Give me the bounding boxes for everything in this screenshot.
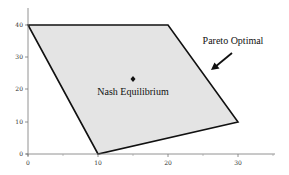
y-tick-20: 20 (15, 85, 23, 92)
nash-equilibrium-label: Nash Equilibrium (97, 86, 169, 97)
y-axis: 0 10 20 30 40 (15, 8, 28, 157)
x-tick-30: 30 (234, 159, 242, 166)
x-tick-10: 10 (94, 159, 102, 166)
y-tick-10: 10 (15, 118, 23, 125)
y-tick-40: 40 (15, 21, 23, 28)
chart: 0 10 20 30 40 0 10 20 30 Nash Equilibriu… (0, 0, 289, 175)
pareto-arrow-icon (211, 53, 232, 70)
y-tick-30: 30 (15, 53, 23, 60)
x-tick-20: 20 (164, 159, 172, 166)
y-tick-0: 0 (19, 150, 23, 157)
pareto-optimal-label: Pareto Optimal (203, 35, 264, 46)
x-tick-0: 0 (26, 159, 30, 166)
x-axis: 0 10 20 30 (26, 154, 275, 166)
